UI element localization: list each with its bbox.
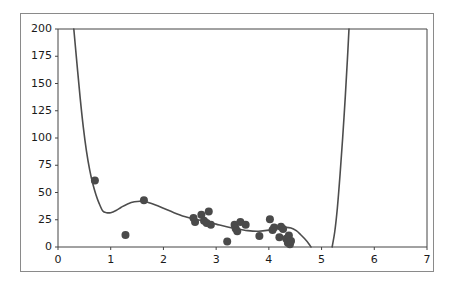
y-tick-label: 75 bbox=[10, 159, 52, 170]
scatter-point bbox=[255, 232, 263, 240]
x-tick-label: 4 bbox=[249, 254, 289, 265]
y-tick-label: 125 bbox=[10, 105, 52, 116]
axes-spines bbox=[58, 29, 427, 247]
y-tick-label: 150 bbox=[10, 78, 52, 89]
y-tick-label: 200 bbox=[10, 23, 52, 34]
chart-figure: 0255075100125150175200 01234567 bbox=[0, 0, 449, 285]
plot-canvas bbox=[0, 0, 449, 285]
scatter-point bbox=[233, 227, 241, 235]
y-tick-label: 50 bbox=[10, 187, 52, 198]
x-tick-label: 5 bbox=[302, 254, 342, 265]
x-tick-label: 7 bbox=[407, 254, 447, 265]
y-tick-label: 100 bbox=[10, 132, 52, 143]
y-tick-label: 175 bbox=[10, 50, 52, 61]
scatter-point bbox=[121, 231, 129, 239]
scatter-point bbox=[223, 238, 231, 246]
scatter-point bbox=[191, 218, 199, 226]
scatter-point bbox=[91, 177, 99, 185]
x-tick-label: 6 bbox=[354, 254, 394, 265]
x-tick-label: 0 bbox=[38, 254, 78, 265]
scatter-points-layer bbox=[91, 177, 295, 249]
scatter-point bbox=[270, 223, 278, 231]
scatter-point bbox=[275, 233, 283, 241]
x-tick-label: 2 bbox=[143, 254, 183, 265]
x-tick-label: 3 bbox=[196, 254, 236, 265]
scatter-point bbox=[140, 196, 148, 204]
tick-marks bbox=[55, 29, 427, 250]
scatter-point bbox=[207, 221, 215, 229]
scatter-point bbox=[287, 237, 295, 245]
x-tick-label: 1 bbox=[91, 254, 131, 265]
scatter-point bbox=[279, 225, 287, 233]
y-tick-label: 0 bbox=[10, 241, 52, 252]
fitted-curve-right-branch-path bbox=[332, 29, 349, 247]
y-tick-label: 25 bbox=[10, 214, 52, 225]
scatter-point bbox=[242, 221, 250, 229]
scatter-point bbox=[205, 208, 213, 216]
scatter-point bbox=[266, 215, 274, 223]
